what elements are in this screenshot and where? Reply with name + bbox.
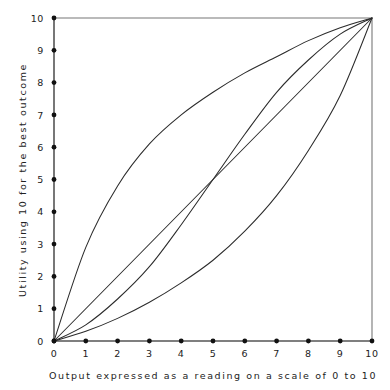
y-tick-dot [52,48,57,53]
x-tick-label: 7 [273,348,280,359]
y-tick-dot [52,145,57,150]
y-tick-label: 8 [37,77,44,88]
y-tick-label: 4 [37,206,44,217]
x-tick-label: 5 [210,348,217,359]
y-axis-title: Utility using 10 for the best outcome [17,63,28,297]
y-tick-label: 7 [37,110,44,121]
y-tick-dot [52,339,57,344]
y-tick-label: 5 [37,174,44,185]
y-tick-label: 1 [37,303,44,314]
y-tick-dot [52,306,57,311]
x-tick-label: 8 [305,348,312,359]
x-tick-label: 2 [114,348,121,359]
x-tick-label: 1 [82,348,89,359]
x-tick-label: 10 [365,348,378,359]
x-tick-dot [338,339,343,344]
utility-curves-chart: 012345678910 012345678910 Output express… [0,0,390,390]
y-tick-dot [52,113,57,118]
y-tick-label: 0 [37,336,44,347]
x-tick-label: 6 [241,348,248,359]
x-tick-label: 4 [178,348,185,359]
x-tick-dot [115,339,120,344]
y-tick-dot [52,80,57,85]
x-tick-label: 3 [146,348,153,359]
x-tick-dot [370,339,375,344]
y-tick-label: 10 [31,13,44,24]
x-tick-dot [147,339,152,344]
y-tick-label: 2 [37,271,44,282]
x-tick-dot [211,339,216,344]
x-tick-label: 0 [51,348,58,359]
y-tick-dot [52,274,57,279]
y-tick-dot [52,242,57,247]
x-tick-dot [242,339,247,344]
x-tick-dot [83,339,88,344]
x-tick-dot [179,339,184,344]
y-tick-label: 9 [37,45,44,56]
y-tick-label: 6 [37,142,44,153]
y-tick-label: 3 [37,239,44,250]
x-axis-title: Output expressed as a reading on a scale… [49,370,377,381]
y-tick-dot [52,16,57,21]
y-tick-dot [52,209,57,214]
x-tick-dot [274,339,279,344]
y-tick-dot [52,177,57,182]
x-tick-label: 9 [337,348,344,359]
x-tick-dot [306,339,311,344]
